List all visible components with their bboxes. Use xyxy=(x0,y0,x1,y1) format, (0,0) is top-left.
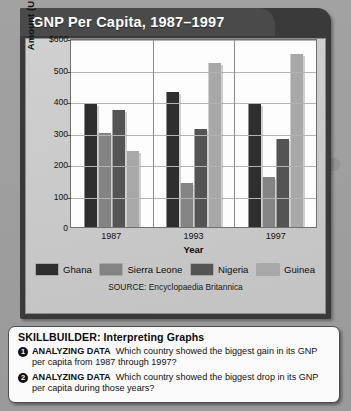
source-note: SOURCE: Encyclopaedia Britannica xyxy=(26,282,325,292)
chart-legend: GhanaSierra LeoneNigeriaGuinea xyxy=(32,261,319,277)
bar-nigeria-1993 xyxy=(194,129,207,227)
chart-title-tab: GNP Per Capita, 1987–1997 xyxy=(20,8,275,36)
bar-guinea-1997 xyxy=(290,54,303,227)
question-number-badge: 1 xyxy=(18,347,28,357)
legend-item-guinea: Guinea xyxy=(257,264,315,275)
tick-mark xyxy=(67,103,71,104)
plot-wrapper: Amount (U.S. Dollars) 0100200300400500$6… xyxy=(26,39,325,265)
bar-guinea-1993 xyxy=(208,63,221,227)
y-tick-label: 500 xyxy=(28,66,68,76)
chart-card: GNP Per Capita, 1987–1997 Amount (U.S. D… xyxy=(20,8,331,319)
bar-nigeria-1987 xyxy=(112,110,125,227)
bar-guinea-1987 xyxy=(126,151,139,227)
y-tick-label: 100 xyxy=(28,192,68,202)
y-tick-label: 200 xyxy=(28,160,68,170)
legend-swatch xyxy=(100,264,122,275)
gridline xyxy=(71,103,316,104)
bar-nigeria-1997 xyxy=(276,139,289,227)
legend-swatch xyxy=(36,264,58,275)
y-axis-ticks: 0100200300400500$600 xyxy=(26,39,68,265)
bar-group-1987 xyxy=(71,40,153,227)
bars-canvas xyxy=(70,39,317,228)
bar-sierra-leone-1987 xyxy=(98,133,111,228)
question-label: ANALYZING DATA xyxy=(32,346,111,356)
legend-label: Sierra Leone xyxy=(127,264,182,275)
question-label: ANALYZING DATA xyxy=(32,372,111,382)
legend-swatch xyxy=(257,264,279,275)
x-tick-label: 1987 xyxy=(70,231,152,245)
page-title: GNP Per Capita, 1987–1997 xyxy=(20,14,225,30)
legend-label: Nigeria xyxy=(218,264,248,275)
skillbuilder-questions: 1ANALYZING DATA Which country showed the… xyxy=(18,346,331,395)
x-axis-title: Year xyxy=(70,244,317,255)
legend-item-nigeria: Nigeria xyxy=(191,264,248,275)
skillbuilder-question: 1ANALYZING DATA Which country showed the… xyxy=(18,346,331,369)
bar-sierra-leone-1997 xyxy=(262,177,275,227)
y-tick-label: 0 xyxy=(28,223,68,233)
question-number-badge: 2 xyxy=(18,373,28,383)
skillbuilder-question: 2ANALYZING DATA Which country showed the… xyxy=(18,372,331,395)
tick-mark xyxy=(67,198,71,199)
gridline xyxy=(71,135,316,136)
bar-group-1993 xyxy=(153,40,235,227)
bar-group-1997 xyxy=(234,40,316,227)
group-separator xyxy=(153,40,154,227)
tick-mark xyxy=(67,40,71,41)
gridline xyxy=(71,166,316,167)
legend-swatch xyxy=(191,264,213,275)
tick-mark xyxy=(67,166,71,167)
x-axis-tick-labels: 198719931997 xyxy=(70,231,317,245)
legend-item-sierra-leone: Sierra Leone xyxy=(100,264,182,275)
y-tick-label: $600 xyxy=(28,34,68,44)
gridline xyxy=(71,40,316,41)
bar-ghana-1993 xyxy=(166,92,179,227)
tick-mark xyxy=(67,72,71,73)
bar-sierra-leone-1993 xyxy=(180,183,193,227)
skillbuilder-title: SKILLBUILDER: Interpreting Graphs xyxy=(18,331,331,343)
question-text: ANALYZING DATA Which country showed the … xyxy=(32,346,331,369)
question-text: ANALYZING DATA Which country showed the … xyxy=(32,372,331,395)
group-separator xyxy=(234,40,235,227)
chart-plot-area: Amount (U.S. Dollars) 0100200300400500$6… xyxy=(25,38,326,314)
x-tick-label: 1993 xyxy=(152,231,234,245)
y-tick-label: 300 xyxy=(28,129,68,139)
tick-mark xyxy=(67,135,71,136)
gridline xyxy=(71,72,316,73)
legend-item-ghana: Ghana xyxy=(36,264,92,275)
x-tick-label: 1997 xyxy=(235,231,317,245)
legend-label: Guinea xyxy=(284,264,315,275)
y-tick-label: 400 xyxy=(28,97,68,107)
legend-label: Ghana xyxy=(63,264,92,275)
skillbuilder-card: SKILLBUILDER: Interpreting Graphs 1ANALY… xyxy=(8,326,340,403)
gridline xyxy=(71,198,316,199)
